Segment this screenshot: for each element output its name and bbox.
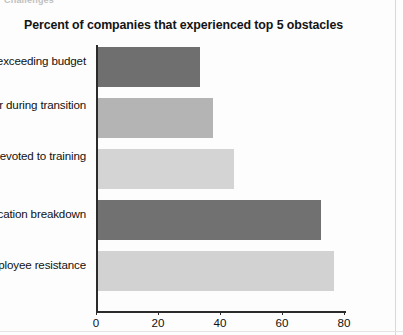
bar <box>98 98 213 138</box>
chart-title: Percent of companies that experienced to… <box>24 18 343 32</box>
category-label: Employee resistance <box>0 258 86 271</box>
x-tick-label: 80 <box>324 316 364 329</box>
bar <box>98 200 321 240</box>
bar-row: Insufficient time devoted to training <box>0 149 403 189</box>
x-tick-mark <box>220 311 221 315</box>
plot-area: Costs exceeding budgetStaff turnover dur… <box>0 40 403 335</box>
bar-row: Costs exceeding budget <box>0 47 403 87</box>
x-tick-label: 60 <box>262 316 302 329</box>
x-tick-mark <box>96 311 97 315</box>
bar-row: Communication breakdown <box>0 200 403 240</box>
x-axis-ticks: 020406080 <box>0 311 403 335</box>
bar <box>98 149 234 189</box>
x-tick-mark <box>282 311 283 315</box>
bar-row: Staff turnover during transition <box>0 98 403 138</box>
bar-row: Employee resistance <box>0 251 403 291</box>
category-label: Communication breakdown <box>0 207 86 220</box>
category-label: Costs exceeding budget <box>0 54 86 67</box>
x-tick-mark <box>158 311 159 315</box>
x-tick-mark <box>344 311 345 315</box>
bar <box>98 47 200 87</box>
category-label: Staff turnover during transition <box>0 98 86 111</box>
bar <box>98 251 334 291</box>
x-tick-label: 0 <box>76 316 116 329</box>
category-label: Insufficient time devoted to training <box>0 149 86 162</box>
cropped-header-fragment: Challenges <box>4 0 54 5</box>
x-tick-label: 40 <box>200 316 240 329</box>
chart-page: Challenges Percent of companies that exp… <box>0 0 403 335</box>
x-tick-label: 20 <box>138 316 178 329</box>
